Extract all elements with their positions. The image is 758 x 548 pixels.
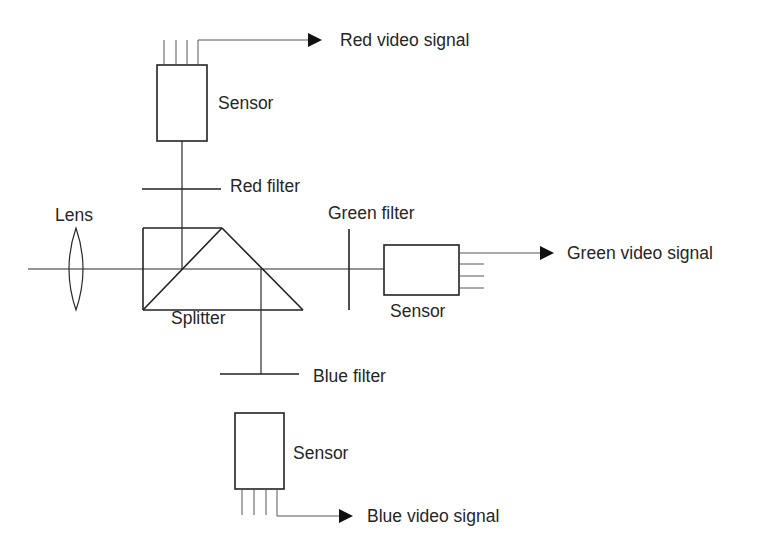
red-signal-arrow-icon bbox=[308, 33, 322, 47]
green-signal-arrow-icon bbox=[540, 246, 554, 260]
lens-label: Lens bbox=[55, 205, 93, 225]
green-filter-label: Green filter bbox=[328, 203, 415, 223]
blue-sensor-label: Sensor bbox=[293, 443, 349, 463]
red-sensor-label: Sensor bbox=[218, 93, 274, 113]
red-sensor-pins bbox=[164, 40, 198, 65]
blue-signal-label: Blue video signal bbox=[367, 506, 499, 526]
green-sensor-pins bbox=[459, 253, 484, 288]
blue-filter-label: Blue filter bbox=[313, 366, 386, 386]
blue-sensor-pins bbox=[242, 489, 277, 516]
red-filter-label: Red filter bbox=[230, 176, 300, 196]
red-signal-label: Red video signal bbox=[340, 30, 469, 50]
green-sensor bbox=[384, 245, 459, 295]
green-signal-label: Green video signal bbox=[567, 243, 713, 263]
blue-signal-arrow-icon bbox=[339, 509, 353, 523]
splitter-label: Splitter bbox=[171, 308, 226, 328]
camera-optics-diagram: Lens Splitter Red filter Sensor Red vide… bbox=[0, 0, 758, 548]
red-sensor bbox=[157, 65, 207, 141]
green-sensor-label: Sensor bbox=[390, 301, 446, 321]
blue-sensor bbox=[235, 413, 284, 489]
